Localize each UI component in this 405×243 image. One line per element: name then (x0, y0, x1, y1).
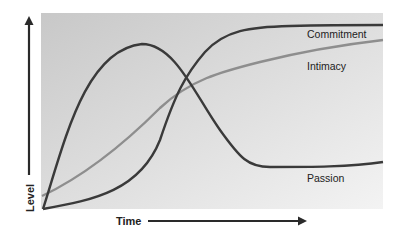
x-axis-label: Time (116, 215, 141, 227)
label-intimacy: Intimacy (307, 60, 347, 72)
y-axis-label: Level (24, 184, 36, 212)
chart: Level Time Commitment Intimacy Passion (0, 0, 405, 243)
x-axis-arrow-icon (148, 217, 307, 226)
label-commitment: Commitment (307, 28, 367, 40)
y-axis-arrow-icon (25, 16, 34, 175)
label-passion: Passion (307, 172, 345, 184)
